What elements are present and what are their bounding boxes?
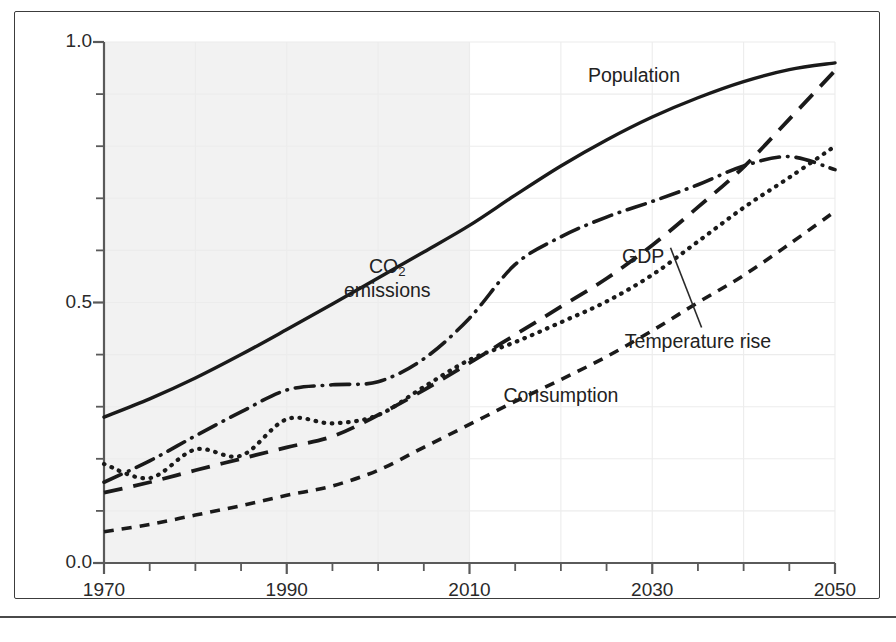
x-axis-tick-label: 1970 <box>59 579 149 601</box>
x-axis-tick-label: 2050 <box>790 579 880 601</box>
x-axis-tick-label: 2030 <box>607 579 697 601</box>
page-bottom-rule <box>0 616 896 618</box>
x-axis-tick-label: 1990 <box>242 579 332 601</box>
co2-subscript: 2 <box>398 264 405 279</box>
consumption-label: Consumption <box>503 385 618 407</box>
population-label: Population <box>588 65 680 87</box>
y-axis-tick-label: 1.0 <box>30 30 92 52</box>
y-axis-tick-label: 0.5 <box>30 291 92 313</box>
x-axis-tick-label: 2010 <box>425 579 515 601</box>
temperature-rise-label: Temperature rise <box>625 331 771 353</box>
y-axis-tick-label: 0.0 <box>30 551 92 573</box>
chart-canvas <box>0 0 896 642</box>
gdp-label: GDP <box>622 246 664 268</box>
figure-container: 0.00.51.0 19701990201020302050 Populatio… <box>0 0 896 642</box>
co2-emissions-label: CO2emissions <box>328 256 446 302</box>
